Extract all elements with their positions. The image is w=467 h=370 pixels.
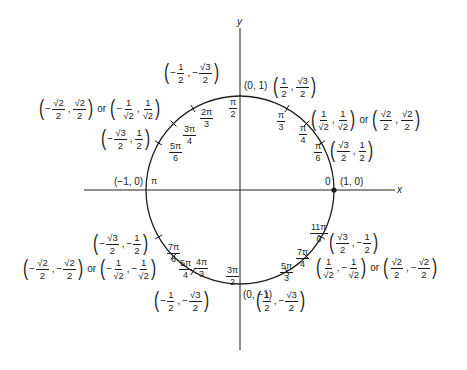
angle-label: π4	[298, 124, 308, 145]
numerator: √3	[114, 128, 127, 140]
numerator: √2	[63, 258, 76, 270]
fraction: 5π3	[280, 262, 293, 283]
numerator: 7π	[296, 248, 309, 259]
minus-sign: −	[170, 68, 176, 78]
left-paren: (	[164, 61, 169, 83]
minus-sign: −	[29, 264, 35, 274]
minus-sign: −	[357, 238, 363, 248]
left-paren: (	[330, 139, 335, 161]
fraction: 12	[363, 232, 370, 254]
denominator: 2	[77, 110, 82, 121]
tick-mark	[155, 235, 162, 239]
angle-label: π6	[313, 142, 323, 163]
numerator: 1	[280, 76, 287, 88]
denominator: 2	[203, 74, 208, 85]
numerator: 7π	[167, 243, 180, 254]
unit-circle-diagram: y x (0, 1) π2 (−1, 0) π 0 (1, 0) (0, −1)…	[0, 0, 467, 370]
denominator: 4	[187, 136, 192, 146]
denominator: √2	[348, 269, 359, 280]
right-paren: )	[432, 256, 437, 278]
denominator: 2	[405, 121, 410, 132]
right-paren: )	[143, 232, 148, 254]
coordinate-label: (−√32,−12)	[92, 233, 149, 255]
numerator: π	[277, 111, 285, 122]
coordinate-label: (√32,−12)	[328, 232, 379, 254]
denominator: √2	[338, 121, 349, 132]
left-paren: (	[154, 289, 159, 311]
right-paren: )	[145, 127, 150, 149]
angle-label-zero: 0	[325, 177, 331, 187]
left-paren: (	[311, 108, 316, 130]
denominator: 4	[300, 259, 305, 269]
numerator: √3	[285, 290, 298, 302]
fraction: √32	[337, 140, 350, 162]
comma: ,	[68, 104, 71, 114]
fraction: √32	[336, 232, 349, 254]
denominator: 2	[40, 270, 45, 281]
comma: ,	[337, 263, 340, 273]
coordinate-label: (−12,−√32)	[153, 290, 210, 312]
fraction: 12	[167, 290, 174, 312]
or-word: or	[97, 104, 106, 114]
fraction: 2π3	[200, 108, 213, 129]
fraction: 1√2	[123, 98, 134, 120]
numerator: √2	[52, 98, 65, 110]
denominator: 2	[178, 74, 183, 85]
denominator: 2	[168, 302, 173, 313]
fraction: √22	[401, 109, 414, 131]
denominator: 6	[316, 153, 321, 163]
fraction: √22	[391, 257, 404, 279]
angle-label: 5π6	[168, 142, 183, 163]
comma: ,	[353, 146, 356, 156]
minus-sign: −	[278, 296, 284, 306]
fraction: 12	[135, 128, 142, 150]
coordinate-label: (−√22,−√22)or(−1√2,−1√2)	[22, 258, 157, 280]
fraction: 12	[133, 233, 140, 255]
fraction: 1√2	[143, 98, 154, 120]
denominator: 2	[193, 302, 198, 313]
right-paren: )	[151, 257, 156, 279]
comma: ,	[291, 82, 294, 92]
numerator: 1	[115, 258, 122, 270]
denominator: 2	[289, 302, 294, 313]
numerator: 5π	[280, 262, 293, 273]
fraction: √32	[106, 233, 119, 255]
fraction: √22	[36, 258, 49, 280]
denominator: 2	[383, 121, 388, 132]
numerator: 1	[363, 232, 370, 244]
coordinate-label: (1√2,1√2)or(√22,√22)	[310, 109, 422, 131]
numerator: √3	[199, 62, 212, 74]
fraction: √22	[73, 98, 86, 120]
numerator: 1	[140, 258, 147, 270]
fraction: 12	[280, 76, 287, 98]
angle-label: 11π6	[309, 223, 329, 244]
right-paren: )	[204, 289, 209, 311]
denominator: 6	[316, 234, 321, 244]
fraction: √22	[418, 257, 431, 279]
coordinate-label: (12,√32)	[272, 76, 317, 98]
fraction: 12	[263, 290, 270, 312]
fraction: 5π4	[179, 259, 192, 280]
left-paren: (	[316, 256, 321, 278]
denominator: √2	[143, 110, 154, 121]
denominator: 2	[360, 152, 365, 163]
numerator: 4π	[195, 258, 208, 269]
numerator: √2	[36, 258, 49, 270]
right-paren: )	[214, 61, 219, 83]
denominator: 2	[56, 110, 61, 121]
denominator: 2	[67, 270, 72, 281]
minus-sign: −	[99, 239, 105, 249]
minus-sign: −	[411, 263, 417, 273]
left-paren: (	[110, 97, 115, 119]
fraction: 1√2	[323, 257, 334, 279]
minus-sign: −	[192, 68, 198, 78]
left-paren: (	[383, 256, 388, 278]
denominator: 2	[110, 245, 115, 256]
numerator: √3	[106, 233, 119, 245]
comma: ,	[177, 296, 180, 306]
numerator: 1	[133, 233, 140, 245]
numerator: 1	[320, 109, 327, 121]
numerator: √2	[380, 109, 393, 121]
left-paren: (	[100, 257, 105, 279]
numerator: 1	[325, 257, 332, 269]
